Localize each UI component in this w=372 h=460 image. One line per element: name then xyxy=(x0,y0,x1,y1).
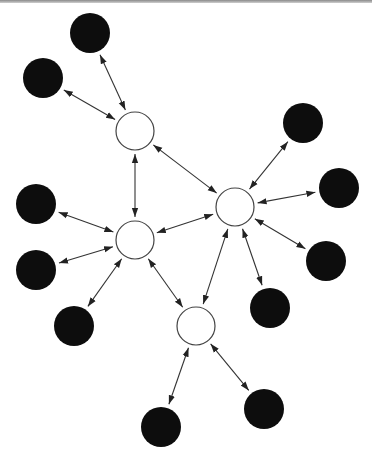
hub-node-hubB xyxy=(216,188,254,226)
edges-layer xyxy=(59,55,316,405)
edge-hubB-leaf4 xyxy=(258,192,316,203)
edge-hubD-leaf10 xyxy=(169,348,189,405)
leaf-node-leaf3 xyxy=(283,103,323,143)
edge-hubA-leaf2 xyxy=(64,90,115,120)
edge-hubB-leaf3 xyxy=(250,142,288,189)
leaf-node-leaf9 xyxy=(54,306,94,346)
network-diagram xyxy=(0,0,372,460)
hub-node-hubC xyxy=(116,221,154,259)
edge-hubB-leaf6 xyxy=(243,229,263,286)
leaf-node-leaf11 xyxy=(244,389,284,429)
edge-hubC-hubD xyxy=(148,259,182,307)
hub-node-hubA xyxy=(116,112,154,150)
leaf-node-leaf2 xyxy=(23,58,63,98)
leaf-node-leaf8 xyxy=(16,250,56,290)
edge-hubC-leaf9 xyxy=(88,259,122,307)
edge-hubB-leaf5 xyxy=(255,219,306,249)
edge-hubB-hubC xyxy=(157,214,213,233)
edge-hubD-leaf11 xyxy=(211,344,249,391)
leaf-node-leaf10 xyxy=(141,407,181,447)
edge-hubA-hubB xyxy=(153,145,216,193)
nodes-layer xyxy=(16,13,359,447)
edge-hubC-leaf7 xyxy=(59,212,114,232)
leaf-node-leaf5 xyxy=(306,241,346,281)
edge-hubB-hubD xyxy=(203,229,228,304)
edge-hubA-leaf1 xyxy=(100,55,125,110)
leaf-node-leaf6 xyxy=(250,288,290,328)
leaf-node-leaf7 xyxy=(16,184,56,224)
hub-node-hubD xyxy=(177,307,215,345)
leaf-node-leaf4 xyxy=(319,168,359,208)
leaf-node-leaf1 xyxy=(70,13,110,53)
edge-hubC-leaf8 xyxy=(59,247,113,263)
